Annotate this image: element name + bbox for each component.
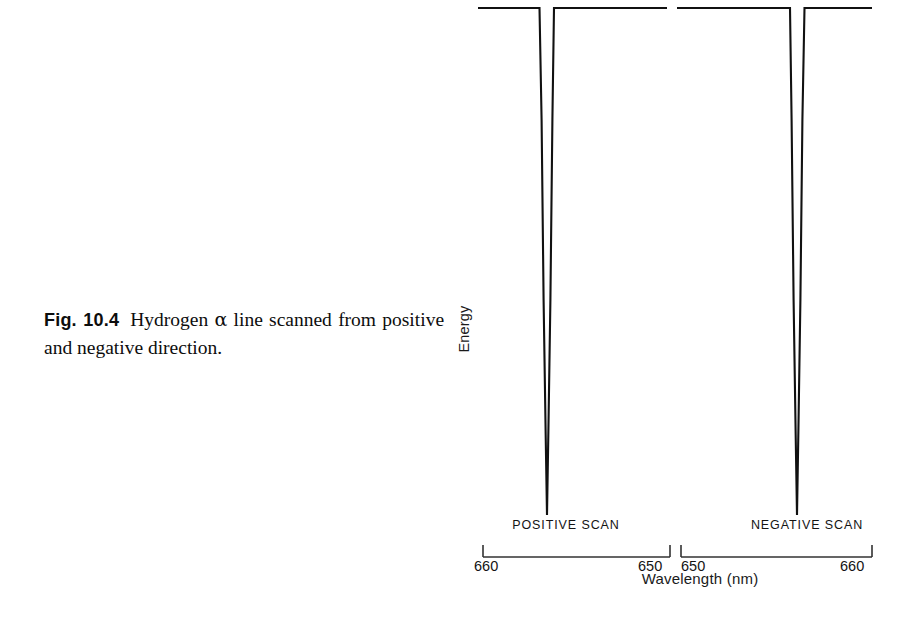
- spectrum-figure: Energy POSITIVE SCAN NEGATIVE SCAN 660 6…: [0, 0, 910, 639]
- x-axis-rules: [470, 540, 880, 566]
- x-axis-right-segment: [681, 545, 872, 557]
- trace-positive-scan: [478, 8, 667, 515]
- x-axis-left-segment: [483, 545, 670, 557]
- panel-label-positive-scan: POSITIVE SCAN: [496, 518, 636, 532]
- spectrum-traces: [470, 0, 880, 525]
- trace-negative-scan: [677, 8, 872, 515]
- panel-label-negative-scan: NEGATIVE SCAN: [737, 518, 877, 532]
- x-tick-label-left-outer: 660: [474, 558, 498, 574]
- x-tick-label-right-outer: 660: [840, 558, 864, 574]
- x-axis-label: Wavelength (nm): [600, 570, 800, 587]
- figure-page: Fig. 10.4Hydrogen α line scanned from po…: [0, 0, 910, 639]
